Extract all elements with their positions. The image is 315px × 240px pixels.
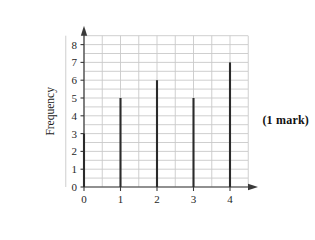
y-axis-tick-label: 4 [72,110,78,122]
y-axis-tick-label: 3 [72,128,78,140]
x-axis-tick-label: 1 [118,193,124,205]
x-axis-title: Number of letters [116,210,198,211]
x-axis-tick-label: 3 [191,193,197,205]
y-axis-tick-label: 1 [72,163,78,175]
arrow-right-icon [248,184,258,190]
y-axis-title: Frequency [44,87,57,136]
x-axis-tick-label: 0 [81,193,87,205]
y-axis-tick-label: 2 [72,145,78,157]
x-axis-ticks: 01234 [81,187,233,205]
arrow-up-icon [81,26,87,36]
mark-allocation-note: (1 mark) [262,113,309,128]
y-axis-tick-label: 8 [72,39,78,51]
y-axis-ticks: 012345678 [72,39,85,193]
chart-axes [81,26,258,191]
x-axis-tick-label: 4 [227,193,233,205]
x-axis-tick-label: 2 [154,193,160,205]
y-axis-tick-label: 0 [72,181,78,193]
y-axis-tick-label: 7 [72,56,78,68]
y-axis-tick-label: 5 [72,92,78,104]
y-axis-tick-label: 6 [72,74,78,86]
